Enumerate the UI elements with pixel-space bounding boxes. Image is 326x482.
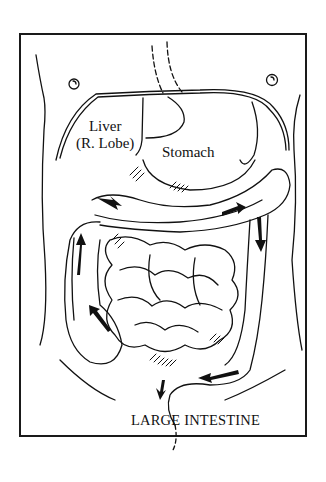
label-liver: Liver (R. Lobe) — [76, 118, 134, 152]
ascending-colon — [65, 222, 122, 364]
label-large-intestine: LARGE INTESTINE — [131, 412, 260, 429]
label-liver-line1: Liver — [76, 118, 134, 135]
esophagus — [152, 42, 182, 93]
abdomen-illustration — [0, 0, 326, 482]
label-stomach: Stomach — [162, 144, 215, 161]
small-intestine — [105, 237, 238, 352]
label-liver-line2: (R. Lobe) — [76, 135, 134, 152]
arrow-icon — [97, 196, 122, 210]
